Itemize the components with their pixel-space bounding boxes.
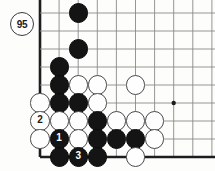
stone-black-c3r1: 3 — [69, 147, 88, 166]
stone-white-c2r3 — [50, 111, 69, 130]
go-board-diagram: 213 95 — [0, 0, 215, 171]
stone-black-c3r9 — [69, 3, 88, 22]
stone-black-c2r6 — [50, 57, 69, 76]
star-point-group — [172, 101, 176, 105]
stone-black-c2r1 — [50, 147, 69, 166]
stone-white-c3r5 — [69, 75, 88, 94]
star-point — [172, 101, 176, 105]
stone-white-c6r3 — [126, 111, 145, 130]
stone-black-c6r2 — [126, 129, 145, 148]
stone-white-c4r5 — [88, 75, 107, 94]
stone-black-c3r7 — [69, 39, 88, 58]
stone-black-c5r2 — [107, 129, 126, 148]
stone-white-c7r2 — [145, 129, 164, 148]
stone-black-c4r1 — [88, 147, 107, 166]
move-number-badge: 95 — [10, 12, 34, 36]
stone-black-c3r4 — [69, 93, 88, 112]
stone-white-c3r2 — [69, 129, 88, 148]
stone-black-c2r4 — [50, 93, 69, 112]
stone-white-c6r1 — [126, 147, 145, 166]
stone-white-c1r2 — [30, 129, 49, 148]
stone-white-c4r4 — [88, 93, 107, 112]
stone-black-c4r2 — [88, 129, 107, 148]
stone-white-c7r3 — [145, 111, 164, 130]
stone-black-c2r2: 1 — [50, 129, 69, 148]
stone-white-c6r5 — [126, 75, 145, 94]
move-label: 3 — [75, 151, 81, 161]
stone-white-c1r3: 2 — [30, 111, 49, 130]
stone-black-c2r5 — [50, 75, 69, 94]
stone-black-c4r3 — [88, 111, 107, 130]
stone-white-c1r4 — [30, 93, 49, 112]
stone-white-c3r3 — [69, 111, 88, 130]
move-label: 2 — [37, 115, 43, 125]
stone-white-c5r3 — [107, 111, 126, 130]
move-label: 1 — [56, 133, 62, 143]
